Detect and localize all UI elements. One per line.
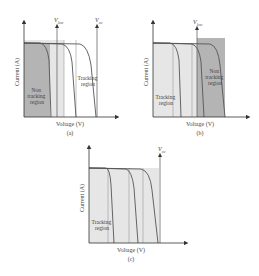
y-axis-label: Current (A) bbox=[14, 58, 21, 86]
panel-caption: (c) bbox=[128, 256, 135, 263]
y-axis-label: Current (A) bbox=[143, 58, 150, 86]
tracking-region-label: Tracking region bbox=[77, 75, 98, 87]
non-tracking-shade bbox=[24, 43, 50, 117]
x-axis-label: Voltage (V) bbox=[186, 121, 214, 128]
panel-caption: (b) bbox=[197, 130, 204, 137]
x-axis-label: Voltage (V) bbox=[117, 247, 145, 254]
panel-a: Vlow Voc Current (A) Voltage (V) (a) Non… bbox=[14, 17, 117, 137]
panel-caption: (a) bbox=[67, 130, 74, 137]
v-oc-label: Voc bbox=[95, 17, 103, 25]
v-low-label: Vlow bbox=[54, 17, 64, 25]
x-axis-label: Voltage (V) bbox=[56, 121, 84, 128]
panel-c: Voc Current (A) Voltage (V) (c) Tracking… bbox=[79, 146, 186, 263]
v-low-label: Vlow bbox=[193, 19, 203, 27]
v-oc-label: Voc bbox=[158, 146, 166, 154]
panel-b: Vlow Current (A) Voltage (V) (b) Trackin… bbox=[143, 19, 248, 137]
iv-curves-figure: Vlow Voc Current (A) Voltage (V) (a) Non… bbox=[0, 0, 259, 276]
y-axis-label: Current (A) bbox=[79, 184, 86, 212]
tracking-shade bbox=[89, 168, 159, 243]
